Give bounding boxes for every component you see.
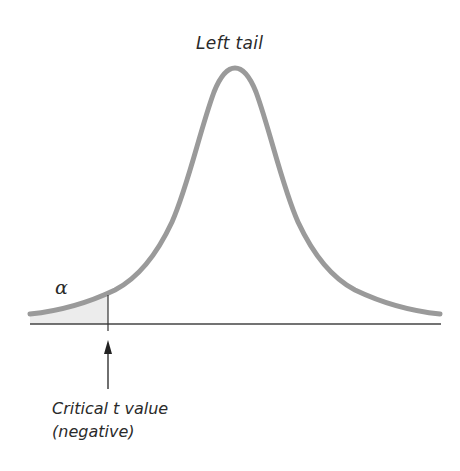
diagram-title: Left tail	[196, 33, 263, 53]
arrow-up-icon	[104, 340, 112, 389]
alpha-label: α	[55, 276, 68, 298]
critical-value-sign-label: (negative)	[52, 422, 134, 441]
t-distribution-curve	[30, 68, 440, 314]
critical-value-label: Critical t value	[52, 399, 168, 418]
